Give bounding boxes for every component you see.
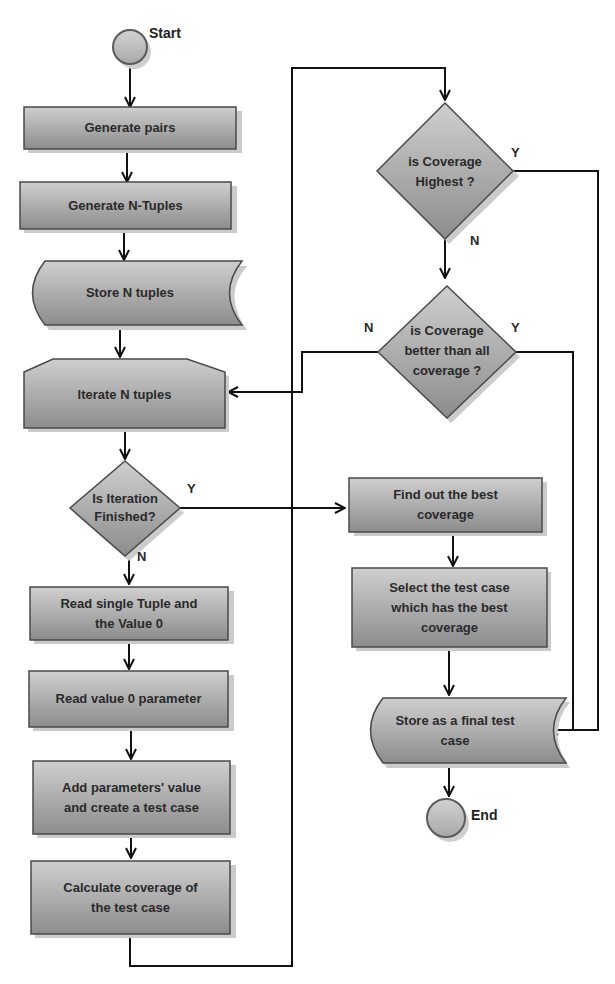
edge-better-no (228, 352, 378, 392)
add-params-label: Add parameters' value and create a test … (33, 761, 230, 834)
generate-ntuples-label: Generate N-Tuples (20, 182, 231, 229)
iterate-ntuples-label: Iterate N tuples (24, 362, 225, 428)
store-ntuples-text: Store N tuples (86, 285, 174, 301)
coverage-highest-line1: is Coverage (408, 152, 482, 172)
store-final-line1: Store as a final test (395, 711, 514, 731)
iteration-finished-line2: Finished? (94, 508, 155, 526)
find-best-coverage-line1: Find out the best (393, 485, 498, 505)
select-test-case-line2: which has the best (391, 598, 507, 618)
read-single-tuple-label: Read single Tuple and the Value 0 (30, 587, 228, 640)
read-single-tuple-line1: Read single Tuple and (60, 594, 197, 614)
read-value0-text: Read value 0 parameter (56, 691, 202, 707)
store-final-label: Store as a final test case (365, 698, 545, 763)
iteration-finished-line1: Is Iteration (92, 490, 158, 508)
read-value0-label: Read value 0 parameter (29, 671, 228, 727)
select-test-case-line1: Select the test case (389, 578, 510, 598)
iteration-finished-label: Is Iteration Finished? (60, 490, 190, 526)
add-params-line1: Add parameters' value (62, 778, 201, 798)
read-single-tuple-line2: the Value 0 (95, 614, 163, 634)
edge-label-iteration-no: N (137, 549, 146, 564)
start-label: Start (149, 25, 181, 41)
calculate-coverage-line1: Calculate coverage of (63, 878, 197, 898)
select-test-case-label: Select the test case which has the best … (352, 568, 547, 647)
generate-pairs-text: Generate pairs (84, 120, 175, 136)
generate-pairs-label: Generate pairs (24, 107, 236, 149)
edge-better-yes (516, 352, 573, 730)
edge-label-better-no: N (364, 320, 373, 335)
coverage-better-label: is Coverage better than all coverage ? (387, 321, 507, 381)
select-test-case-line3: coverage (421, 618, 478, 638)
store-ntuples-label: Store N tuples (30, 261, 230, 325)
calculate-coverage-label: Calculate coverage of the test case (31, 861, 230, 934)
end-terminal (427, 799, 469, 842)
coverage-highest-label: is Coverage Highest ? (385, 152, 505, 192)
add-params-line2: and create a test case (64, 798, 199, 818)
edge-label-better-yes: Y (511, 320, 520, 335)
iterate-ntuples-text: Iterate N tuples (78, 387, 172, 403)
generate-ntuples-text: Generate N-Tuples (68, 198, 183, 214)
coverage-better-line2: better than all (404, 341, 489, 361)
end-label: End (471, 807, 497, 823)
store-final-line2: case (441, 731, 470, 751)
find-best-coverage-line2: coverage (417, 505, 474, 525)
coverage-highest-line2: Highest ? (415, 172, 474, 192)
calculate-coverage-line2: the test case (91, 898, 170, 918)
coverage-better-line1: is Coverage (410, 321, 484, 341)
start-terminal (113, 30, 151, 69)
edge-label-iteration-yes: Y (187, 481, 196, 496)
coverage-better-line3: coverage ? (413, 361, 482, 381)
edge-label-highest-yes: Y (511, 145, 520, 160)
edge-label-highest-no: N (470, 233, 479, 248)
find-best-coverage-label: Find out the best coverage (349, 478, 542, 532)
